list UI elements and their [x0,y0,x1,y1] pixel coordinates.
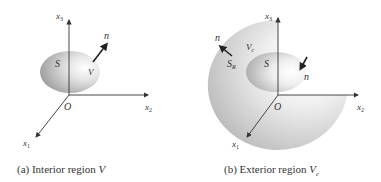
caption-b: (b) Exterior region Vc [224,163,319,178]
caption-a: (a) Interior region V [17,163,105,175]
x2-label-b: x2 [356,102,364,113]
x1-label-b: x1 [231,139,239,150]
x2-label: x2 [144,102,152,113]
caption-b-var: V [309,163,316,175]
diagram-canvas: x3 x2 x1 O S V n x3 x2 x1 O S SR Vc n n [0,0,381,182]
caption-a-text: (a) Interior region [17,163,99,175]
normal-label: n [104,30,109,41]
caption-b-var-sub: c [316,170,319,178]
x3-label: x3 [55,11,63,22]
surface-label: S [55,58,60,69]
panel-a: x3 x2 x1 O S V n [22,11,152,149]
origin-label-b: O [274,101,281,112]
caption-a-var: V [99,163,106,175]
inner-normal-label: n [304,71,309,82]
outer-normal-label: n [215,32,220,43]
panel-b: x3 x2 x1 O S SR Vc n n [208,11,364,150]
inner-surface-label: S [264,58,269,69]
normal-arrow [93,45,106,62]
caption-b-text: (b) Exterior region [224,163,309,175]
x1-label: x1 [22,138,30,149]
x3-label-b: x3 [264,11,272,22]
origin-label: O [64,101,71,112]
inner-surface-s [246,52,306,92]
